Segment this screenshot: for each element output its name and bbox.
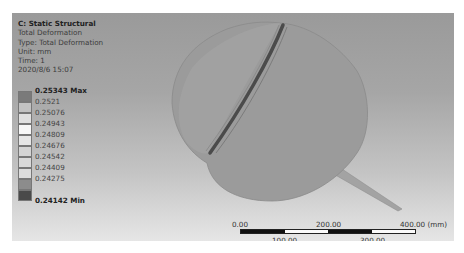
legend-swatch (18, 190, 32, 201)
scale-label: 400.00 (mm) (400, 220, 447, 229)
scale-bar: 0.00 200.00 400.00 (mm) 100.00 300.00 (232, 220, 432, 241)
legend-swatch (18, 135, 32, 146)
scale-ruler (240, 229, 416, 234)
result-type: Type: Total Deformation (18, 38, 103, 47)
result-name: Total Deformation (18, 28, 103, 37)
scale-label: 300.00 (360, 236, 385, 241)
legend-label: 0.24676 (35, 141, 65, 150)
analysis-title: C: Static Structural (18, 19, 103, 28)
legend-swatch (18, 168, 32, 179)
legend-label: 0.24409 (35, 163, 65, 172)
legend-label: 0.24809 (35, 130, 65, 139)
result-time: Time: 1 (18, 56, 103, 65)
legend-label: 0.2521 (35, 97, 60, 106)
legend-label-min: 0.24142 Min (35, 196, 85, 205)
result-info: C: Static Structural Total Deformation T… (18, 19, 103, 75)
legend-swatch (18, 146, 32, 157)
legend-swatch (18, 179, 32, 190)
legend-swatch (18, 102, 32, 113)
scale-label: 100.00 (272, 236, 297, 241)
legend-label: 0.24943 (35, 119, 65, 128)
legend-label-max: 0.25343 Max (35, 86, 87, 95)
result-date: 2020/8/6 15:07 (18, 65, 103, 74)
legend-label: 0.25076 (35, 108, 65, 117)
legend-swatch (18, 91, 32, 102)
graphics-viewport[interactable]: C: Static Structural Total Deformation T… (12, 13, 454, 241)
legend-swatch (18, 157, 32, 168)
scale-label: 200.00 (316, 220, 341, 229)
legend-label: 0.24275 (35, 174, 65, 183)
result-unit: Unit: mm (18, 47, 103, 56)
legend-swatch (18, 124, 32, 135)
scale-label: 0.00 (232, 220, 248, 229)
legend-label: 0.24542 (35, 152, 65, 161)
legend-swatch (18, 113, 32, 124)
